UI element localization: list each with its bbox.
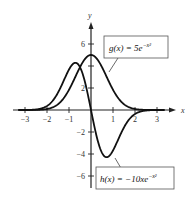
- x-tick-label: −1: [65, 115, 74, 124]
- x-tick-label: 3: [155, 115, 159, 124]
- x-tick-label: −2: [43, 115, 52, 124]
- x-axis-arrow-icon: [169, 108, 176, 113]
- g-label: g(x) = 5e−x²: [104, 36, 168, 72]
- y-axis-arrow-icon: [89, 22, 94, 29]
- y-tick-label: −2: [76, 128, 85, 137]
- chart: x y −3−2−112362−2−4−6 g(x) = 5e−x² h(x) …: [0, 0, 194, 199]
- x-axis-label: x: [180, 106, 185, 115]
- y-axis-label: y: [87, 11, 92, 20]
- x-tick-label: 2: [133, 115, 137, 124]
- y-tick-label: −6: [76, 172, 85, 181]
- x-tick-label: 1: [111, 115, 115, 124]
- h-label: h(x) = −10xe−x²: [96, 158, 174, 189]
- y-tick-label: 6: [81, 40, 85, 49]
- x-tick-label: −3: [21, 115, 30, 124]
- y-tick-label: 2: [81, 84, 85, 93]
- y-tick-label: −4: [76, 150, 85, 159]
- g-leader-line: [109, 58, 118, 72]
